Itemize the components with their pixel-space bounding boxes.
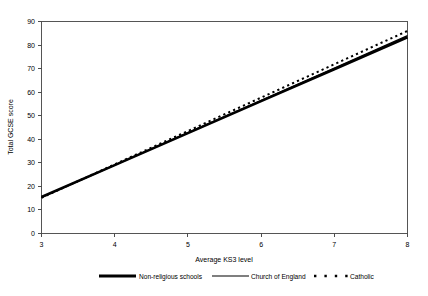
x-axis-title: Average KS3 level xyxy=(195,256,253,264)
x-tick-label-4: 4 xyxy=(113,241,117,248)
legend-label-catholic: Catholic xyxy=(350,273,375,280)
y-tick-label-70: 70 xyxy=(27,65,35,72)
legend-item-church-of-england: Church of England xyxy=(212,273,306,281)
series-line-non-religious-schools xyxy=(42,37,408,197)
x-tick-label-5: 5 xyxy=(186,241,190,248)
legend-item-non-religious-schools: Non-religious schools xyxy=(99,273,203,281)
y-tick-label-40: 40 xyxy=(27,136,35,143)
legend-label-non-religious-schools: Non-religious schools xyxy=(139,273,203,281)
y-tick-label-0: 0 xyxy=(31,230,35,237)
y-tick-label-20: 20 xyxy=(27,183,35,190)
x-tick-label-6: 6 xyxy=(259,241,263,248)
y-axis-ticks xyxy=(38,22,42,234)
y-tick-label-80: 80 xyxy=(27,42,35,49)
line-chart: 90 80 70 60 50 40 30 20 10 0 3 4 5 6 7 8… xyxy=(0,0,428,296)
data-series-layer xyxy=(42,31,408,198)
legend-item-catholic: Catholic xyxy=(314,273,375,280)
legend-label-church-of-england: Church of England xyxy=(251,273,306,281)
y-tick-label-50: 50 xyxy=(27,112,35,119)
y-tick-label-30: 30 xyxy=(27,159,35,166)
x-tick-label-7: 7 xyxy=(332,241,336,248)
plot-area-frame xyxy=(42,22,408,234)
x-tick-label-3: 3 xyxy=(40,241,44,248)
y-tick-label-10: 10 xyxy=(27,206,35,213)
x-tick-label-8: 8 xyxy=(406,241,410,248)
chart-legend: Non-religious schools Church of England … xyxy=(99,273,375,281)
x-axis-ticks xyxy=(42,233,408,237)
chart-figure: 90 80 70 60 50 40 30 20 10 0 3 4 5 6 7 8… xyxy=(0,0,428,296)
y-tick-label-90: 90 xyxy=(27,18,35,25)
y-tick-label-60: 60 xyxy=(27,89,35,96)
y-axis-title: Total GCSE score xyxy=(7,99,14,155)
